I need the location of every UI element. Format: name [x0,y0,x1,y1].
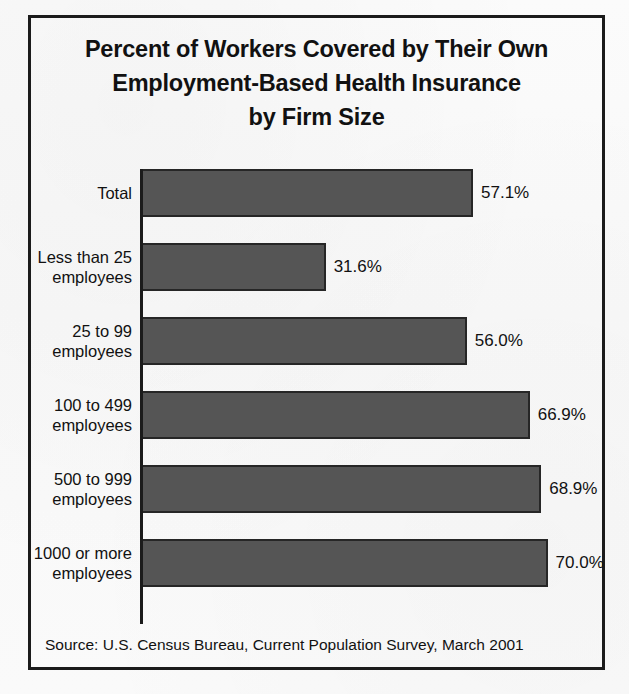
bar [143,539,548,587]
bar [143,465,541,513]
bar [143,243,326,291]
chart-title-line-3: by Firm Size [31,100,602,134]
bar-row: 100 to 499 employees66.9% [31,391,602,439]
category-label: Total [31,183,132,203]
category-label: Less than 25 employees [31,247,132,287]
category-label: 1000 or more employees [31,543,132,583]
category-label: 500 to 999 employees [31,469,132,509]
bar-row: Total57.1% [31,169,602,217]
category-label: 25 to 99 employees [31,321,132,361]
bar-row: 25 to 99 employees56.0% [31,317,602,365]
bar-value-label: 70.0% [556,553,604,573]
chart-figure: Percent of Workers Covered by Their Own … [28,15,605,670]
bar-row: 500 to 999 employees68.9% [31,465,602,513]
bar-row: 1000 or more employees70.0% [31,539,602,587]
bar [143,317,467,365]
bar-row: Less than 25 employees31.6% [31,243,602,291]
bar-value-label: 68.9% [549,479,597,499]
bar [143,169,473,217]
bar-value-label: 31.6% [334,257,382,277]
bar-value-label: 57.1% [481,183,529,203]
plot-area: Total57.1%Less than 25 employees31.6%25 … [31,166,602,624]
chart-title-line-1: Percent of Workers Covered by Their Own [31,32,602,66]
chart-title: Percent of Workers Covered by Their Own … [31,32,602,134]
source-note: Source: U.S. Census Bureau, Current Popu… [45,635,524,655]
category-label: 100 to 499 employees [31,395,132,435]
bar [143,391,530,439]
bar-value-label: 66.9% [538,405,586,425]
chart-title-line-2: Employment-Based Health Insurance [31,66,602,100]
bar-value-label: 56.0% [475,331,523,351]
